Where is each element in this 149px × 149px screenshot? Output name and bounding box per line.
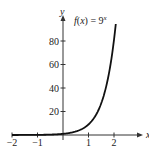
- exponential-chart: −2−112 20406080 x y f(x) = 9x: [0, 0, 149, 149]
- x-tick-label: −2: [7, 137, 18, 148]
- x-tick-label: 1: [86, 137, 91, 148]
- x-axis-label: x: [145, 129, 149, 140]
- y-tick-label: 40: [49, 83, 59, 94]
- x-axis-arrow-icon: [137, 133, 143, 138]
- y-tick-label: 80: [49, 36, 59, 47]
- x-tick-label: 2: [112, 137, 117, 148]
- y-axis-label: y: [59, 6, 65, 17]
- y-tick-label: 20: [49, 106, 59, 117]
- y-tick-label: 60: [49, 59, 59, 70]
- x-tick-label: −1: [32, 137, 43, 148]
- function-label: f(x) = 9x: [74, 14, 108, 27]
